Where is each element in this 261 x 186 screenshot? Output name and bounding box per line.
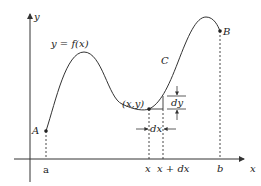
point-b-label: B (222, 26, 230, 37)
curve-equation-label: y = f(x) (50, 38, 89, 49)
curve-c (46, 17, 220, 131)
dx-label: dx (150, 123, 162, 134)
point-b (218, 29, 222, 33)
dy-label: dy (171, 97, 183, 108)
tick-label-x: x (145, 163, 151, 174)
tick-label-a: a (43, 164, 49, 175)
curve-name-label: C (161, 55, 169, 66)
y-axis-label: y (33, 11, 40, 22)
arc-length-diagram: y x dy dx A B (x,y) y = f(x) C a x x + d… (0, 0, 261, 186)
point-xy (147, 107, 151, 111)
point-a (44, 129, 48, 133)
point-xy-label: (x,y) (122, 98, 144, 109)
point-a-label: A (31, 125, 39, 136)
tick-label-x-plus-dx: x + dx (157, 163, 190, 174)
tick-label-b: b (217, 163, 223, 174)
x-axis-label: x (250, 163, 256, 174)
